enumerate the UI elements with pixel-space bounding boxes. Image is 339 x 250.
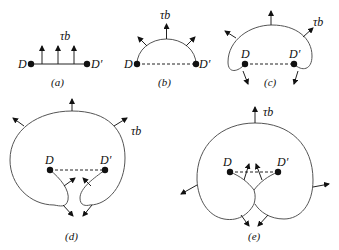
force-arrow-icon bbox=[258, 215, 268, 226]
panel-a: D D′ τb (a) bbox=[17, 29, 103, 89]
dislocation-arc bbox=[137, 39, 196, 64]
label-force: τb bbox=[263, 105, 273, 119]
force-arrow-icon bbox=[241, 215, 249, 226]
label-d: D bbox=[123, 57, 133, 71]
force-arrow-icon bbox=[114, 118, 127, 126]
force-arrow-icon bbox=[138, 37, 147, 46]
label-d-prime: D′ bbox=[288, 47, 301, 61]
label-d-prime: D′ bbox=[198, 57, 211, 71]
force-arrow-icon bbox=[83, 205, 92, 216]
force-arrow-icon bbox=[303, 28, 313, 37]
label-d: D bbox=[44, 153, 54, 167]
force-arrow-icon bbox=[243, 71, 248, 84]
force-arrow-icon bbox=[13, 118, 24, 126]
caption-e: (e) bbox=[248, 230, 261, 243]
force-arrow-icon bbox=[181, 185, 197, 194]
pin-point-d-prime bbox=[102, 167, 108, 173]
label-force: τb bbox=[313, 15, 323, 29]
label-d: D bbox=[17, 57, 27, 71]
dislocation-loop bbox=[197, 123, 313, 220]
pin-point-d bbox=[47, 167, 53, 173]
force-arrow-icon bbox=[294, 71, 298, 84]
label-d: D bbox=[222, 155, 232, 169]
label-force: τb bbox=[131, 124, 141, 138]
panel-c: D D′ τb (c) bbox=[225, 11, 323, 89]
caption-c: (c) bbox=[264, 76, 277, 89]
dislocation-inner-segment bbox=[254, 172, 278, 190]
pin-point-d-prime bbox=[84, 61, 90, 67]
pin-point-d bbox=[28, 61, 34, 67]
panel-e: D D′ τb (e) bbox=[181, 105, 329, 243]
force-arrow-icon bbox=[63, 205, 73, 216]
force-arrow-icon bbox=[244, 164, 249, 180]
force-arrow-icon bbox=[313, 184, 329, 187]
caption-d: (d) bbox=[65, 230, 78, 243]
label-d-prime: D′ bbox=[276, 155, 289, 169]
force-arrow-icon bbox=[186, 37, 195, 46]
pin-point-d-prime bbox=[291, 61, 297, 67]
pin-point-d-prime bbox=[275, 169, 281, 175]
force-arrow-icon bbox=[225, 31, 236, 38]
caption-b: (b) bbox=[158, 76, 171, 89]
label-force: τb bbox=[60, 29, 70, 43]
pin-point-d bbox=[227, 169, 233, 175]
panel-b: D D′ τb (b) bbox=[123, 8, 211, 89]
label-force: τb bbox=[160, 8, 170, 22]
caption-a: (a) bbox=[51, 76, 64, 89]
label-d: D bbox=[240, 47, 250, 61]
force-arrow-icon bbox=[64, 178, 75, 186]
frank-read-diagram: D D′ τb (a) D D′ τb (b) D D′ τb (c) bbox=[0, 0, 339, 250]
pin-point-d bbox=[134, 61, 140, 67]
label-d-prime: D′ bbox=[99, 153, 112, 167]
pin-point-d bbox=[242, 61, 248, 67]
panel-d: D D′ τb (d) bbox=[10, 99, 141, 243]
label-d-prime: D′ bbox=[90, 57, 103, 71]
